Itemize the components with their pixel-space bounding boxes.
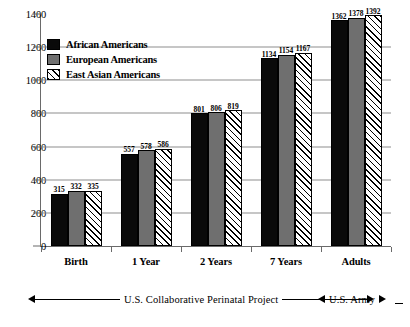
- x-axis-tick-mark: [391, 247, 392, 252]
- bar: 1378: [348, 18, 365, 246]
- y-axis-tick-mark: [33, 179, 41, 180]
- y-axis-tick-mark: [33, 246, 41, 247]
- y-axis-tick-mark: [33, 14, 41, 15]
- y-axis-tick-mark: [33, 80, 41, 81]
- y-axis-tick-mark: [33, 146, 41, 147]
- x-axis-category-label: Adults: [321, 256, 391, 267]
- bar: 315: [51, 194, 68, 246]
- bar-value-label: 332: [70, 183, 81, 191]
- bar: 332: [68, 191, 85, 246]
- legend-item: European Americans: [47, 52, 160, 67]
- y-axis-tick-mark: [33, 47, 41, 48]
- bar: 578: [138, 150, 155, 246]
- bar-value-label: 806: [210, 105, 221, 113]
- legend-item-label: European Americans: [66, 54, 157, 65]
- x-axis-tick-mark: [41, 247, 42, 252]
- bar-group: 801806819: [181, 14, 251, 246]
- bar-value-label: 586: [157, 141, 168, 149]
- bar-value-label: 819: [227, 103, 238, 111]
- legend-item: African Americans: [47, 37, 160, 52]
- bar-value-label: 557: [123, 146, 134, 154]
- legend-swatch-icon: [47, 39, 60, 50]
- legend-swatch-icon: [47, 69, 60, 80]
- bar-value-label: 1134: [262, 51, 277, 59]
- bar: 819: [225, 110, 242, 246]
- legend-item-label: East Asian Americans: [66, 69, 160, 80]
- y-axis-tick-mark: [33, 113, 41, 114]
- bar-value-label: 1392: [366, 8, 381, 16]
- x-axis-tick-mark: [181, 247, 182, 252]
- bar-group: 113411541167: [251, 14, 321, 246]
- bar-value-label: 315: [53, 186, 64, 194]
- bar-chart-figure: 0200400600800100012001400 31533233555757…: [0, 0, 410, 327]
- annotation-us-army: U.S. Army: [318, 292, 386, 306]
- bar: 586: [155, 149, 172, 246]
- x-axis-category-label: 2 Years: [181, 256, 251, 267]
- bar: 806: [208, 112, 225, 246]
- annotation-label-cpp: U.S. Collaborative Perinatal Project: [120, 294, 282, 305]
- study-annotations: U.S. Collaborative Perinatal Project U.S…: [0, 292, 410, 314]
- bar-value-label: 578: [140, 143, 151, 151]
- legend-item: East Asian Americans: [47, 67, 160, 82]
- x-axis-category-label: 7 Years: [251, 256, 321, 267]
- bar: 1167: [295, 53, 312, 246]
- x-axis-tick-mark: [321, 247, 322, 252]
- x-axis-tick-mark: [111, 247, 112, 252]
- chart-legend: African AmericansEuropean AmericansEast …: [47, 37, 160, 82]
- annotation-label-army: U.S. Army: [325, 294, 379, 305]
- arrow-left-icon: [28, 295, 35, 303]
- x-axis-tick-mark: [251, 247, 252, 252]
- annotation-underscore-mark: [395, 303, 403, 304]
- bar: 801: [191, 113, 208, 246]
- bar-value-label: 1378: [349, 10, 364, 18]
- x-axis-line: [40, 246, 391, 247]
- x-axis-category-labels: Birth1 Year2 Years7 YearsAdults: [41, 256, 391, 267]
- bar-value-label: 801: [193, 106, 204, 114]
- bar-group: 136213781392: [321, 14, 391, 246]
- legend-item-label: African Americans: [66, 39, 147, 50]
- bar: 1392: [365, 15, 382, 246]
- bar-group-bars: 113411541167: [261, 14, 312, 246]
- bar: 1134: [261, 58, 278, 246]
- bar-value-label: 1362: [332, 13, 347, 21]
- arrow-right-icon: [379, 295, 386, 303]
- bar: 335: [85, 191, 102, 247]
- bar-value-label: 1167: [296, 45, 311, 53]
- bar-value-label: 335: [87, 183, 98, 191]
- bar-group-bars: 801806819: [191, 14, 242, 246]
- y-axis-tick-mark: [33, 212, 41, 213]
- bar: 1154: [278, 55, 295, 246]
- x-axis-category-label: Birth: [41, 256, 111, 267]
- arrow-shaft: [35, 299, 120, 300]
- bar-group-bars: 136213781392: [331, 14, 382, 246]
- bar: 1362: [331, 20, 348, 246]
- bar-value-label: 1154: [279, 47, 294, 55]
- arrow-left-icon: [318, 295, 325, 303]
- legend-swatch-icon: [47, 54, 60, 65]
- bar: 557: [121, 154, 138, 246]
- x-axis-category-label: 1 Year: [111, 256, 181, 267]
